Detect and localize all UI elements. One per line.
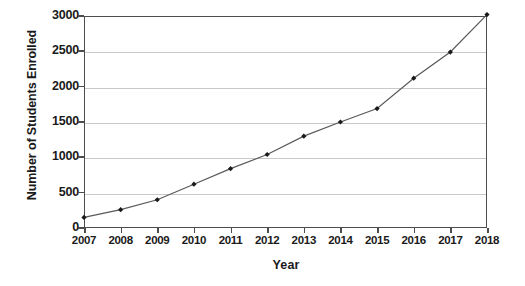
x-tick-mark <box>194 228 196 233</box>
x-tick-mark <box>340 228 342 233</box>
y-tick-mark <box>78 156 84 158</box>
chart-figure: Number of Students Enrolled 050010001500… <box>0 0 525 286</box>
y-tick-mark <box>78 121 84 123</box>
y-tick-label: 0 <box>35 220 79 234</box>
x-tick-label: 2018 <box>465 234 509 246</box>
y-tick-label: 2500 <box>35 43 79 57</box>
x-tick-mark <box>121 228 123 233</box>
y-tick-label: 1500 <box>35 114 79 128</box>
x-tick-mark <box>450 228 452 233</box>
y-tick-label: 1000 <box>35 149 79 163</box>
gridline <box>85 52 486 53</box>
x-tick-mark <box>231 228 233 233</box>
x-tick-mark <box>487 228 489 233</box>
y-tick-label: 2000 <box>35 79 79 93</box>
x-tick-mark <box>304 228 306 233</box>
y-tick-mark <box>78 50 84 52</box>
x-tick-mark <box>414 228 416 233</box>
x-tick-mark <box>84 228 86 233</box>
x-tick-mark <box>377 228 379 233</box>
gridline <box>85 88 486 89</box>
x-tick-mark <box>267 228 269 233</box>
plot-area <box>84 16 487 228</box>
gridline <box>85 158 486 159</box>
gridline <box>85 194 486 195</box>
y-tick-mark <box>78 15 84 17</box>
x-tick-mark <box>157 228 159 233</box>
gridline <box>85 123 486 124</box>
x-axis-title: Year <box>84 258 488 272</box>
y-tick-mark <box>78 86 84 88</box>
y-tick-mark <box>78 192 84 194</box>
y-tick-label: 500 <box>35 185 79 199</box>
y-tick-label: 3000 <box>35 8 79 22</box>
